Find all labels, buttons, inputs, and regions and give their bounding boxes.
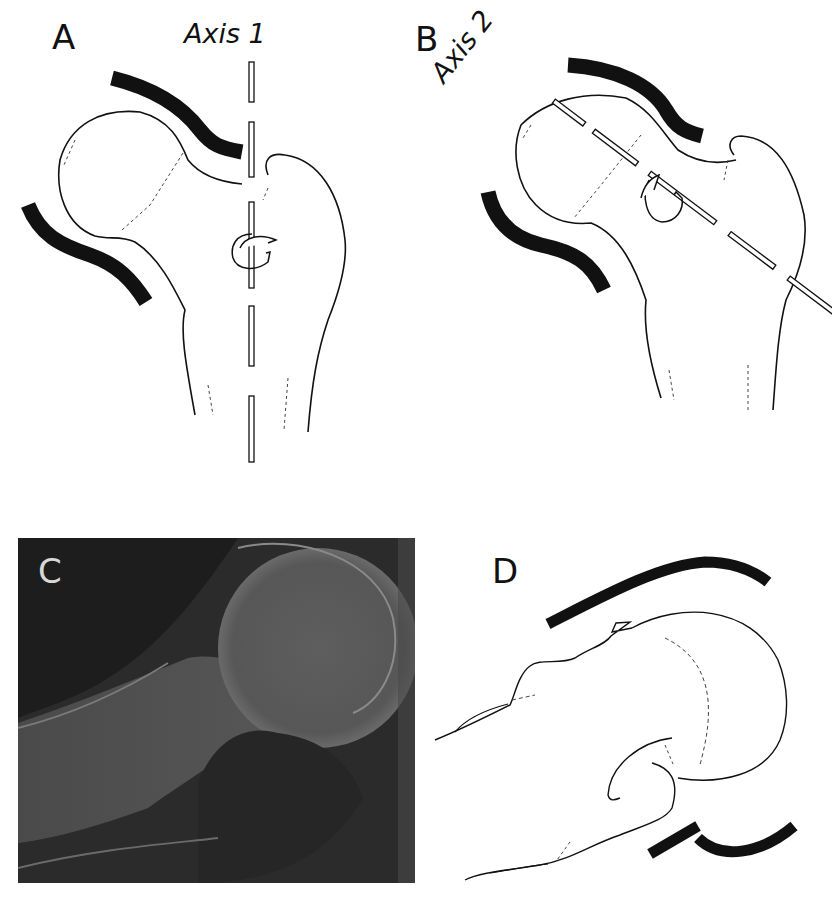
acetabulum-lower-b [488,192,604,290]
acetabulum-lower-a [28,205,146,302]
panel-d: D [430,520,832,897]
femur-diagram-b [416,0,832,470]
trochanter-outline-a [266,154,345,432]
femoral-head-outline-d [632,612,787,780]
acetabulum-upper-b [568,65,702,136]
shaft-lower-outline-d [465,763,675,880]
panel-c-label: C [38,554,62,588]
acetabulum-lower-segment-d [650,826,698,854]
xray-rendering [18,538,415,883]
panel-c-xray-image: C [18,538,415,883]
acetabulum-lower-arc-d [698,826,794,852]
femur-outline-a [59,111,242,415]
acetabulum-upper-d [548,562,768,624]
panel-b: B Axis 2 [416,0,832,470]
femur-tracing-d [430,520,832,897]
acetabulum-upper-a [112,78,242,152]
lesser-trochanter-d [608,738,672,800]
axis-1-line [249,62,254,462]
panel-a: A Axis 1 [0,0,416,470]
trochanter-outline-b [730,136,805,410]
femur-diagram-a [0,0,416,470]
